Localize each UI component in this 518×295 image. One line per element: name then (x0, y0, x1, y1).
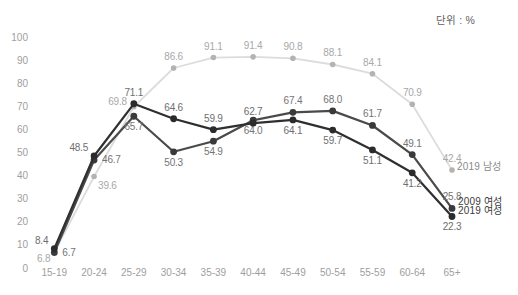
data-point-label: 91.4 (244, 40, 263, 51)
data-point-label: 8.4 (35, 235, 49, 246)
data-point (130, 113, 137, 120)
x-axis-category-label: 40-44 (240, 267, 266, 278)
unit-label: 단위 : % (355, 12, 475, 27)
data-point-label: 91.1 (204, 41, 223, 52)
x-axis-category-label: 30-34 (161, 267, 187, 278)
data-point (449, 167, 455, 173)
data-point-label: 70.9 (403, 87, 422, 98)
data-point (409, 169, 416, 176)
data-point (210, 126, 217, 133)
data-point (449, 213, 456, 220)
data-point-label: 59.7 (323, 135, 342, 146)
data-point-label: 54.9 (204, 146, 223, 157)
x-axis-category-label: 55-59 (360, 267, 386, 278)
data-point-label: 6.8 (37, 253, 51, 264)
data-point-label: 64.0 (244, 125, 263, 136)
data-point-label: 48.5 (69, 142, 88, 153)
y-axis-tick-label: 90 (17, 55, 29, 66)
data-point (51, 245, 58, 252)
data-point (329, 108, 336, 115)
data-point (170, 115, 177, 122)
data-point-label: 41.2 (403, 178, 422, 189)
y-axis-tick-label: 60 (17, 124, 29, 135)
data-point (369, 122, 376, 129)
data-point-label: 71.1 (125, 87, 144, 98)
y-axis-tick-label: 20 (17, 216, 29, 227)
data-point-label: 67.4 (284, 95, 303, 106)
data-point (290, 55, 296, 61)
data-point-label: 59.9 (204, 113, 223, 124)
x-axis-category-label: 20-24 (81, 267, 107, 278)
data-point (130, 100, 137, 107)
data-point-label: 50.3 (164, 157, 183, 168)
data-point-label: 6.7 (62, 247, 76, 258)
data-point (369, 147, 376, 154)
chart-svg: 010203040506070809010015-1920-2425-2930-… (0, 0, 518, 295)
data-point-label: 39.6 (98, 180, 117, 191)
data-point (409, 151, 416, 158)
data-point-label: 46.7 (102, 154, 121, 165)
data-point-label: 64.1 (284, 125, 303, 136)
legend-2019-male: 2019 남성 (457, 161, 501, 172)
data-point-label: 61.7 (363, 108, 382, 119)
y-axis-tick-label: 80 (17, 78, 29, 89)
y-axis-tick-label: 50 (17, 147, 29, 158)
data-point (91, 174, 97, 180)
x-axis-category-label: 15-19 (42, 267, 68, 278)
data-point (449, 205, 456, 212)
x-axis-category-label: 60-64 (399, 267, 425, 278)
y-axis-tick-label: 10 (17, 239, 29, 250)
x-axis-category-label: 65+ (444, 267, 461, 278)
y-axis-tick-label: 0 (22, 263, 28, 274)
data-point-label: 65.7 (125, 121, 144, 132)
y-axis-tick-label: 30 (17, 193, 29, 204)
data-point-label: 49.1 (403, 138, 422, 149)
data-point (170, 148, 177, 155)
chart-panel: 단위 : % 010203040506070809010015-1920-242… (0, 0, 518, 295)
x-axis-category-label: 25-29 (121, 267, 147, 278)
data-point (290, 117, 297, 124)
data-point (210, 138, 217, 145)
data-point-label: 64.6 (164, 102, 183, 113)
data-point (329, 127, 336, 134)
y-axis-tick-label: 100 (11, 32, 28, 43)
data-point-label: 86.6 (164, 51, 183, 62)
data-point-label: 62.7 (244, 106, 263, 117)
data-point-label: 22.3 (443, 221, 462, 232)
data-point (409, 101, 415, 107)
data-point-label: 51.1 (363, 155, 382, 166)
data-point-label: 88.1 (323, 47, 342, 58)
data-point-label: 84.1 (363, 57, 382, 68)
data-point (250, 120, 257, 127)
data-point (370, 71, 376, 77)
data-point-label: 68.0 (323, 94, 342, 105)
data-point-label: 90.8 (284, 41, 303, 52)
y-axis-tick-label: 40 (17, 170, 29, 181)
x-axis-category-label: 45-49 (280, 267, 306, 278)
data-point (330, 62, 336, 68)
data-point (211, 55, 217, 61)
x-axis-category-label: 50-54 (320, 267, 346, 278)
x-axis-category-label: 35-39 (201, 267, 227, 278)
y-axis-tick-label: 70 (17, 101, 29, 112)
data-point (171, 65, 177, 71)
data-point (290, 109, 297, 116)
data-point (91, 153, 98, 160)
legend-2019-female: 2019 여성 (458, 205, 502, 216)
data-point (250, 54, 256, 60)
